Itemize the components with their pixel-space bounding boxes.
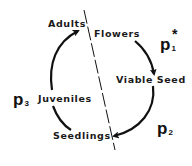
- life-cycle-diagram: Adults Flowers Viable Seed Seedlings Juv…: [0, 0, 192, 166]
- stage-label-viable-seed: Viable Seed: [116, 75, 186, 85]
- param-p3: p3: [13, 91, 29, 108]
- param-p3-base: p: [13, 90, 23, 109]
- curve-juveniles-to-seedlings: [53, 106, 71, 130]
- param-p2-subscript: 2: [168, 128, 172, 137]
- param-p1-asterisk: *: [172, 27, 177, 41]
- stage-label-juveniles: Juveniles: [38, 94, 92, 104]
- param-p1: p1 *: [160, 36, 176, 53]
- arrow-flowers-to-viable-seed: [135, 41, 154, 74]
- stage-label-seedlings: Seedlings: [53, 131, 111, 141]
- arrow-viable-seed-to-seedlings: [114, 86, 153, 136]
- param-p1-base: p: [160, 35, 170, 54]
- param-p3-subscript: 3: [24, 99, 28, 108]
- param-p1-subscript: 1: [171, 44, 175, 53]
- param-p2-base: p: [157, 119, 167, 138]
- param-p2: p2: [157, 120, 173, 137]
- arrow-juveniles-to-adults: [51, 31, 78, 90]
- stage-label-flowers: Flowers: [94, 29, 140, 39]
- stage-label-adults: Adults: [48, 19, 86, 29]
